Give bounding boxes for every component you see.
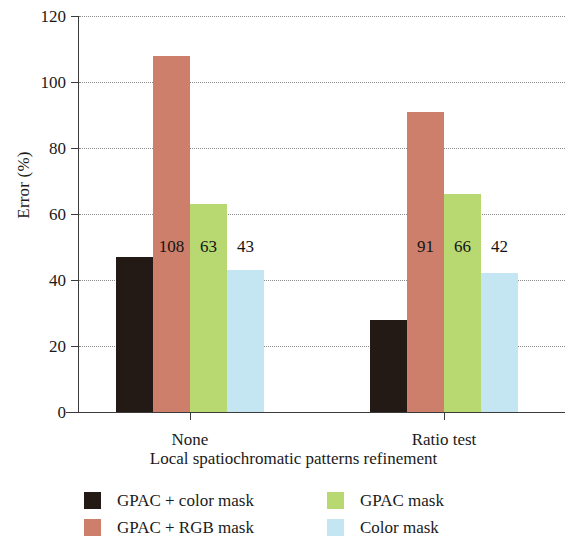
legend-swatch-icon <box>84 492 101 509</box>
bar: 66 <box>444 194 481 412</box>
bar-value-label: 108 <box>153 237 190 257</box>
gridline <box>79 82 565 84</box>
y-tick-mark <box>71 148 79 149</box>
legend-swatch-icon <box>327 492 344 509</box>
bar-value-label: 66 <box>444 237 481 257</box>
x-tick-label: Ratio test <box>412 430 477 450</box>
bar <box>116 257 153 412</box>
bar: 108 <box>153 56 190 412</box>
legend: GPAC + color maskGPAC maskGPAC + RGB mas… <box>84 487 554 541</box>
x-tick-mark <box>190 412 191 420</box>
bar: 42 <box>481 273 518 412</box>
bar-value-label: 91 <box>407 237 444 257</box>
bar: 43 <box>227 270 264 412</box>
y-tick-label: 40 <box>49 272 66 289</box>
legend-label: Color mask <box>360 518 439 538</box>
bar: 91 <box>407 112 444 412</box>
x-axis-title: Local spatiochromatic patterns refinemen… <box>0 449 587 469</box>
plot-area: 020406080100120 1086343916642 NoneRatio … <box>78 16 565 412</box>
y-tick-label: 20 <box>49 338 66 355</box>
y-tick-label: 0 <box>58 404 67 421</box>
gridline <box>79 16 565 18</box>
y-tick-mark <box>71 214 79 215</box>
gridline <box>79 214 565 216</box>
y-tick-label: 60 <box>49 206 66 223</box>
legend-item: Color mask <box>327 518 554 538</box>
bar <box>370 320 407 412</box>
bar: 63 <box>190 204 227 412</box>
y-tick-mark <box>71 346 79 347</box>
bar-value-label: 43 <box>227 237 264 257</box>
legend-label: GPAC + RGB mask <box>117 518 254 538</box>
legend-item: GPAC + RGB mask <box>84 518 327 538</box>
legend-swatch-icon <box>84 519 101 536</box>
legend-label: GPAC + color mask <box>117 491 254 511</box>
bar-value-label: 63 <box>190 237 227 257</box>
bar-value-label: 42 <box>481 237 518 257</box>
y-tick-label: 80 <box>49 140 66 157</box>
y-tick-mark <box>71 412 79 413</box>
y-tick-mark <box>71 280 79 281</box>
x-tick-label: None <box>172 430 209 450</box>
legend-item: GPAC mask <box>327 491 554 511</box>
y-tick-mark <box>71 82 79 83</box>
legend-item: GPAC + color mask <box>84 491 327 511</box>
y-tick-mark <box>71 16 79 17</box>
y-axis-title: Error (%) <box>14 95 34 275</box>
x-tick-mark <box>444 412 445 420</box>
y-tick-label: 120 <box>41 8 67 25</box>
x-axis-line <box>66 412 565 413</box>
gridline <box>79 148 565 150</box>
legend-label: GPAC mask <box>360 491 444 511</box>
chart-figure: Error (%) 020406080100120 1086343916642 … <box>0 0 587 548</box>
y-tick-label: 100 <box>41 74 67 91</box>
legend-swatch-icon <box>327 519 344 536</box>
